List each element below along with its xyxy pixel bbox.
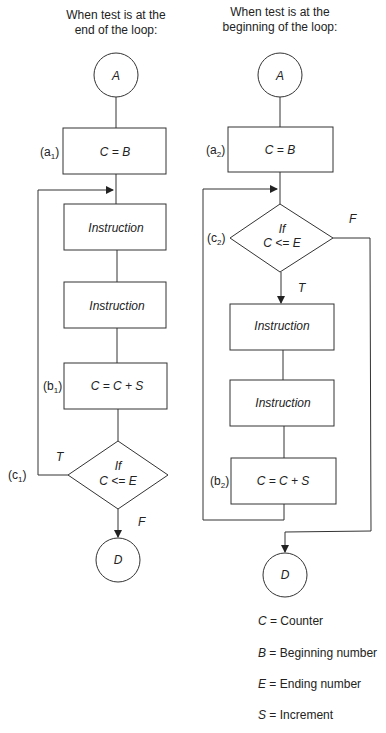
legend-var: E [258, 677, 266, 691]
left-false-label: F [138, 515, 146, 529]
left-end-label: D [114, 553, 123, 567]
legend-eq: = [266, 708, 280, 722]
right-decision-line2: C <= E [263, 236, 301, 250]
legend-var: S [258, 708, 266, 722]
legend-desc: Ending number [280, 677, 361, 691]
legend-desc: Increment [280, 708, 333, 722]
left-init-tag: (a1) [40, 145, 59, 161]
legend-eq: = [267, 614, 281, 628]
right-increment-text: C = C + S [257, 474, 310, 488]
left-increment-text: C = C + S [91, 379, 144, 393]
right-start-label: A [275, 69, 284, 83]
legend-eq: = [266, 677, 280, 691]
left-decision-tag: (c1) [8, 468, 26, 484]
legend-item-beginning: B = Beginning number [258, 646, 377, 660]
right-false-label: F [349, 212, 357, 226]
legend-item-counter: C = Counter [258, 614, 323, 628]
left-true-label: T [56, 450, 65, 464]
legend-item-increment: S = Increment [258, 708, 333, 722]
right-increment-tag: (b2) [210, 474, 229, 490]
legend-desc: Beginning number [280, 646, 377, 660]
left-increment-tag: (b1) [43, 379, 62, 395]
flowchart-canvas: A (a1) C = B Instruction Instruction (b1… [0, 0, 386, 733]
right-instruction-2-text: Instruction [255, 396, 311, 410]
right-init-tag: (a2) [206, 143, 225, 159]
left-instruction-2-text: Instruction [89, 299, 145, 313]
right-end-label: D [281, 568, 290, 582]
right-true-label: T [298, 281, 307, 295]
left-start-label: A [111, 69, 120, 83]
left-instruction-1-text: Instruction [88, 221, 144, 235]
right-instruction-1-text: Instruction [254, 319, 310, 333]
legend-item-ending: E = Ending number [258, 677, 361, 691]
left-decision-line2: C <= E [99, 474, 137, 488]
left-flowchart [38, 53, 168, 582]
legend-eq: = [266, 646, 280, 660]
legend-var: B [258, 646, 266, 660]
left-init-text: C = B [100, 145, 130, 159]
legend-desc: Counter [280, 614, 323, 628]
right-decision-tag: (c2) [207, 231, 225, 247]
legend-var: C [258, 614, 267, 628]
right-init-text: C = B [265, 143, 295, 157]
